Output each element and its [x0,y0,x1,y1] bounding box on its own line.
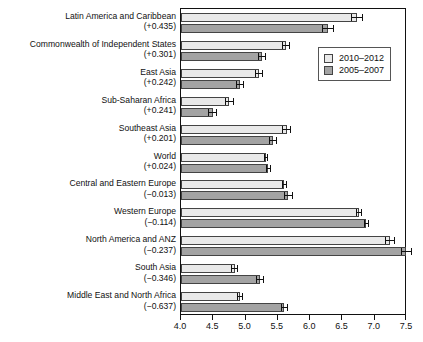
legend-label-2005-2007: 2005–2007 [339,65,384,75]
category-delta: (+0.201) [0,133,176,144]
category-name: South Asia [0,262,176,273]
category-delta: (+0.301) [0,49,176,60]
category-delta: (−0.346) [0,273,176,284]
bar-dark [181,80,240,89]
category-label-column: Latin America and Caribbean(+0.435)Commo… [0,0,176,315]
category-name: East Asia [0,67,176,78]
category-name: World [0,151,176,162]
bar-dark [181,219,366,228]
category-label: South Asia(−0.346) [0,262,176,283]
bar-light [181,69,259,78]
category-label: Latin America and Caribbean(+0.435) [0,11,176,32]
x-tick [180,315,181,320]
x-tick [309,315,310,320]
category-name: Commonwealth of Independent States [0,39,176,50]
x-tick [277,315,278,320]
category-name: Southeast Asia [0,123,176,134]
bar-light [181,208,359,217]
bar-light [181,180,284,189]
x-tick-label: 7.5 [386,321,423,331]
legend-swatch-2010-2012 [324,54,333,63]
bar-dark [181,303,284,312]
legend-item-2005-2007: 2005–2007 [324,64,384,76]
bar-dark [181,52,262,61]
bar-chart-figure: Latin America and Caribbean(+0.435)Commo… [0,0,423,342]
bar-light [181,292,240,301]
bar-dark [181,24,328,33]
bar-dark [181,108,213,117]
x-tick [374,315,375,320]
bar-dark [181,247,406,256]
bar-dark [181,164,268,173]
bar-light [181,153,266,162]
category-label: Central and Eastern Europe(−0.013) [0,178,176,199]
x-tick [212,315,213,320]
legend-swatch-2005-2007 [324,66,333,75]
bar-dark [181,275,260,284]
category-delta: (+0.241) [0,105,176,116]
category-label: Western Europe(−0.114) [0,206,176,227]
category-label: World(+0.024) [0,151,176,172]
bar-light [181,236,390,245]
category-label: Commonwealth of Independent States(+0.30… [0,39,176,60]
category-delta: (+0.435) [0,21,176,32]
bar-light [181,97,229,106]
category-name: North America and ANZ [0,234,176,245]
x-tick [341,315,342,320]
legend-label-2010-2012: 2010–2012 [339,53,384,63]
category-name: Central and Eastern Europe [0,178,176,189]
category-delta: (−0.013) [0,189,176,200]
bar-light [181,13,357,22]
bar-dark [181,136,273,145]
x-tick [405,315,406,320]
bar-light [181,125,287,134]
category-label: Sub-Saharan Africa(+0.241) [0,95,176,116]
category-delta: (+0.242) [0,77,176,88]
category-label: North America and ANZ(−0.237) [0,234,176,255]
category-delta: (−0.637) [0,301,176,312]
x-tick [245,315,246,320]
bar-light [181,264,235,273]
category-delta: (+0.024) [0,161,176,172]
category-label: Southeast Asia(+0.201) [0,123,176,144]
x-axis-tick-labels: 4.04.55.05.56.06.57.07.5 [0,321,423,335]
category-label: Middle East and North Africa(−0.637) [0,290,176,311]
category-delta: (−0.114) [0,217,176,228]
category-name: Sub-Saharan Africa [0,95,176,106]
category-name: Latin America and Caribbean [0,11,176,22]
legend: 2010–2012 2005–2007 [318,47,391,81]
legend-item-2010-2012: 2010–2012 [324,52,384,64]
category-name: Western Europe [0,206,176,217]
category-label: East Asia(+0.242) [0,67,176,88]
category-delta: (−0.237) [0,245,176,256]
bar-dark [181,191,288,200]
category-name: Middle East and North Africa [0,290,176,301]
bar-light [181,41,286,50]
